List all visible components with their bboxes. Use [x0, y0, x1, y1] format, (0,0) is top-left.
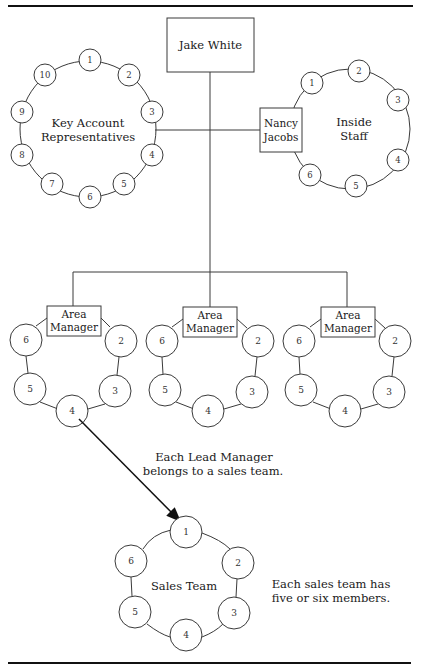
connector-lines: [73, 72, 347, 308]
area-manager-label-line1: Area: [196, 309, 222, 321]
area-manager-label-line2: Manager: [50, 321, 99, 333]
area-manager-label-line2: Manager: [324, 322, 373, 334]
svg-text:2: 2: [392, 336, 398, 346]
arrow-note-line2: belongs to a sales team.: [143, 464, 283, 478]
sales-team-member: 5: [119, 596, 151, 628]
sales-team-member: 4: [170, 619, 202, 651]
area-member: 3: [236, 376, 268, 408]
key-account-ring: Key Account Representatives 1 2 3 4 5 6 …: [11, 49, 163, 208]
key-account-member: 5: [113, 173, 135, 195]
svg-text:6: 6: [307, 170, 312, 180]
area-member: 6: [10, 324, 42, 356]
sales-team-member: 3: [218, 597, 250, 629]
svg-text:3: 3: [395, 95, 400, 105]
svg-text:1: 1: [309, 78, 314, 88]
svg-text:2: 2: [235, 558, 241, 568]
svg-text:5: 5: [132, 607, 138, 617]
svg-text:1: 1: [87, 55, 92, 65]
area-member: 3: [373, 376, 405, 408]
area-group-1: Area Manager 2 3 4 5 6: [10, 306, 137, 427]
svg-text:1: 1: [183, 527, 189, 537]
svg-text:2: 2: [126, 70, 131, 80]
svg-text:5: 5: [298, 385, 304, 395]
sales-note-line2: five or six members.: [272, 591, 390, 605]
liaison-label-line2: Jacobs: [263, 131, 299, 143]
svg-text:9: 9: [19, 107, 24, 117]
svg-text:6: 6: [128, 556, 134, 566]
key-account-label-line2: Representatives: [41, 130, 135, 144]
key-account-member: 9: [11, 101, 33, 123]
svg-text:10: 10: [40, 70, 51, 80]
svg-text:5: 5: [353, 181, 358, 191]
svg-text:3: 3: [231, 608, 237, 618]
area-manager-label-line1: Area: [60, 308, 86, 320]
svg-text:3: 3: [249, 387, 255, 397]
svg-text:6: 6: [23, 335, 29, 345]
arrow-note-line1: Each Lead Manager: [155, 450, 273, 464]
area-member: 2: [242, 325, 274, 357]
svg-text:4: 4: [69, 406, 75, 416]
inside-staff-member: 5: [345, 175, 367, 197]
svg-text:5: 5: [162, 385, 168, 395]
sales-note-line1: Each sales team has: [272, 577, 391, 591]
org-chart-diagram: Jake White Key Account Representatives 1…: [0, 0, 422, 669]
sales-team-member: 1: [170, 516, 202, 548]
inside-staff-ring: Inside Staff 1 2 3 4 5 6: [290, 60, 410, 197]
inside-staff-member: 1: [301, 72, 323, 94]
key-account-label-line1: Key Account: [52, 116, 125, 130]
svg-text:6: 6: [159, 336, 165, 346]
area-member: 4: [192, 395, 224, 427]
svg-text:3: 3: [149, 107, 154, 117]
svg-text:5: 5: [27, 384, 33, 394]
key-account-member: 4: [141, 144, 163, 166]
area-member: 4: [329, 395, 361, 427]
area-member: 6: [146, 325, 178, 357]
svg-text:4: 4: [395, 155, 400, 165]
svg-text:4: 4: [149, 150, 154, 160]
sales-team-member: 6: [115, 545, 147, 577]
liaison-label-line1: Nancy: [264, 117, 298, 129]
svg-text:2: 2: [118, 336, 124, 346]
key-account-member: 3: [141, 101, 163, 123]
inside-staff-label-line1: Inside: [336, 115, 372, 129]
key-account-member: 6: [79, 186, 101, 208]
svg-text:3: 3: [386, 387, 392, 397]
area-member: 2: [105, 325, 137, 357]
svg-text:7: 7: [49, 179, 54, 189]
svg-text:6: 6: [296, 336, 302, 346]
svg-text:2: 2: [255, 336, 261, 346]
key-account-member: 7: [41, 173, 63, 195]
area-manager-label-line2: Manager: [186, 322, 235, 334]
svg-text:4: 4: [342, 406, 348, 416]
inside-staff-member: 2: [348, 60, 370, 82]
area-manager-label-line1: Area: [334, 309, 360, 321]
key-account-member: 1: [79, 49, 101, 71]
area-member: 3: [99, 375, 131, 407]
svg-text:8: 8: [19, 150, 24, 160]
area-member: 5: [149, 374, 181, 406]
sales-team-label: Sales Team: [151, 579, 217, 593]
svg-text:4: 4: [205, 406, 211, 416]
inside-staff-member: 3: [387, 89, 409, 111]
sales-team-ring: Sales Team 1 2 3 4 5 6: [115, 516, 254, 651]
top-manager-label: Jake White: [178, 38, 242, 52]
area-group-3: Area Manager 2 3 4 5 6: [283, 307, 411, 427]
svg-text:2: 2: [356, 66, 361, 76]
inside-staff-member: 4: [387, 149, 409, 171]
inside-staff-label-line2: Staff: [340, 129, 368, 143]
key-account-member: 8: [11, 144, 33, 166]
inside-staff-member: 6: [299, 164, 321, 186]
area-member: 5: [285, 374, 317, 406]
area-member: 6: [283, 325, 315, 357]
svg-text:5: 5: [121, 179, 126, 189]
sales-team-member: 2: [222, 547, 254, 579]
svg-text:4: 4: [183, 630, 189, 640]
liaison-box: Nancy Jacobs: [260, 108, 302, 152]
area-member: 2: [379, 325, 411, 357]
svg-text:3: 3: [112, 386, 118, 396]
area-group-2: Area Manager 2 3 4 5 6: [146, 307, 274, 427]
svg-text:6: 6: [87, 192, 92, 202]
key-account-member: 2: [118, 64, 140, 86]
area-member: 5: [14, 373, 46, 405]
top-manager-box: Jake White: [167, 18, 254, 72]
